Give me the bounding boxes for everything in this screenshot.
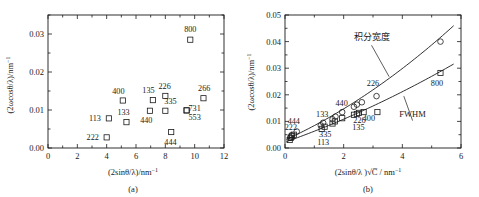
panel-a-marker-square [188, 37, 193, 42]
panel-a-x-tick-label: 0 [46, 151, 50, 161]
panel-a-marker-square [150, 98, 155, 103]
panel-a-y-tick-label: 0.02 [29, 67, 44, 77]
panel-a-plot-frame [48, 15, 224, 148]
panel-a-y-tick-label: 0.00 [29, 143, 44, 153]
panel-b-y-tick-label: 0.04 [266, 37, 282, 47]
panel-b-y-tick-label: 0.00 [266, 143, 281, 153]
panel-a-point-label: 222 [87, 133, 99, 142]
panel-a-marker-square [169, 129, 174, 134]
panel-a-y-tick-label: 0.03 [29, 29, 44, 39]
panel-b-point-label: 440 [335, 99, 347, 108]
panel-a-point-label: 731 [189, 104, 201, 113]
panel-b-annotation-leader [372, 45, 390, 76]
panel-a-datapoints: 222113400133440135226335444731553266800 [87, 25, 211, 146]
panel-a-marker-square [201, 96, 206, 101]
chart-panel-a: 0246810120.000.010.020.03 22211340013344… [0, 0, 239, 197]
panel-a-point-label: 135 [142, 86, 154, 95]
panel-a-point-label: 226 [158, 82, 170, 91]
panel-a-point-label: 266 [198, 84, 210, 93]
panel-b-x-axis-label: (2sinθ/λ )√C̅ / nm−1 [335, 167, 402, 177]
panel-a-x-tick-label: 2 [75, 151, 79, 161]
panel-a-point-label: 444 [164, 138, 176, 147]
panel-b-marker-circle [438, 39, 444, 45]
panel-b-y-tick-label: 0.02 [266, 90, 281, 100]
panel-a-marker-square [106, 116, 111, 121]
chart-panel-b: 02460.000.010.020.030.040.05 44422213344… [240, 0, 479, 197]
panel-b-marker-circle [359, 99, 365, 105]
panel-a-point-label: 133 [117, 108, 129, 117]
panel-b-x-tick-label: 6 [459, 151, 463, 161]
panel-b-point-label: 335 [319, 130, 331, 139]
panel-a-x-axis-label: (2sinθ/λ)/nm−1 [108, 167, 158, 177]
panel-b-point-label: 226 [367, 79, 379, 88]
panel-a-point-label: 800 [184, 25, 196, 34]
panel-b-svg: 02460.000.010.020.030.040.05 44422213344… [240, 0, 479, 197]
panel-b-x-tick-label: 2 [342, 151, 346, 161]
panel-a-point-label: 400 [112, 87, 124, 96]
panel-b-point-label: 400 [363, 114, 375, 123]
panel-a-y-tick-label: 0.01 [29, 105, 44, 115]
panel-a-x-tick-label: 10 [190, 151, 199, 161]
panel-a-caption: (a) [128, 184, 138, 194]
panel-b-annotation-label: 积分宽度 [354, 31, 390, 42]
panel-b-point-label: 800 [431, 79, 443, 88]
panel-b-caption: (b) [363, 184, 373, 194]
panel-a-point-label: 113 [89, 114, 101, 123]
panel-a-point-label: 553 [189, 113, 201, 122]
panel-a-marker-square [163, 108, 168, 113]
panel-b-point-label: 222 [285, 123, 297, 132]
panel-b-annotation-label: FWHM [399, 109, 426, 119]
panel-a-marker-square [147, 108, 152, 113]
panel-b-y-tick-label: 0.05 [266, 10, 281, 20]
panel-a-x-tick-label: 8 [163, 151, 167, 161]
panel-b-y-tick-label: 0.03 [266, 63, 281, 73]
panel-a-svg: 0246810120.000.010.020.03 22211340013344… [0, 0, 239, 197]
panel-b-y-axis-label: (2ωcosθ/λ)/nm−1 [246, 53, 256, 110]
panel-a-marker-square [124, 120, 129, 125]
panel-a-marker-square [104, 135, 109, 140]
panel-a-point-label: 335 [164, 97, 176, 106]
panel-b-y-tick-label: 0.01 [266, 116, 281, 126]
panel-b-curve-fwhm [286, 64, 453, 142]
panel-a-y-axis-label: (2ωcosθ/λ)/nm−1 [5, 56, 15, 113]
panel-b-annotations: 积分宽度FWHM [354, 31, 427, 120]
panel-a-x-tick-label: 4 [105, 151, 110, 161]
figure-container: 0246810120.000.010.020.03 22211340013344… [0, 0, 479, 197]
panel-a-point-label: 440 [140, 116, 152, 125]
panel-b-marker-square [375, 109, 380, 114]
panel-b-x-tick-label: 4 [400, 151, 405, 161]
panel-b-x-tick-label: 0 [283, 151, 287, 161]
panel-a-marker-square [120, 98, 125, 103]
panel-a-x-tick-label: 12 [220, 151, 229, 161]
panel-b-marker-circle [374, 93, 380, 99]
panel-b-point-label: 133 [316, 110, 328, 119]
panel-a-x-tick-label: 6 [134, 151, 138, 161]
